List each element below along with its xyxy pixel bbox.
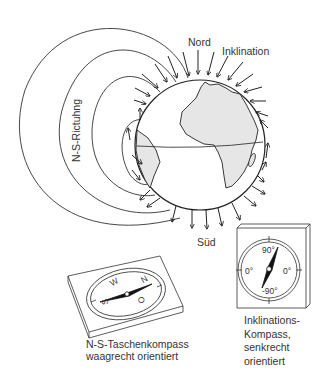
inclination-caption-line2: Kompass, (244, 328, 300, 342)
inclination-compass-caption: Inklinations- Kompass, senkrecht orienti… (244, 314, 300, 368)
north-label: Nord (188, 36, 211, 48)
scale-90-label: 90° (262, 244, 275, 256)
globe (135, 80, 265, 210)
south-label: Süd (197, 236, 216, 248)
pocket-compass-caption-line1: N-S-Taschenkompass (86, 338, 189, 350)
inclination-label: Inklination (222, 45, 269, 57)
inclination-caption-line1: Inklinations- (244, 314, 300, 328)
pocket-compass-caption: N-S-Taschenkompass waagrecht orientiert (86, 338, 189, 362)
pocket-compass-caption-line2: waagrecht orientiert (86, 350, 189, 362)
inclination-caption-line4: orientiert (244, 355, 300, 369)
ns-direction-label: N-S-Rictuhng (70, 99, 82, 162)
scale-minus90-label: -90° (262, 285, 278, 297)
scale-0-left-label: 0° (245, 265, 253, 277)
scale-0-right-label: 0° (283, 265, 291, 277)
inclination-caption-line3: senkrecht (244, 341, 300, 355)
pocket-compass (68, 256, 183, 338)
